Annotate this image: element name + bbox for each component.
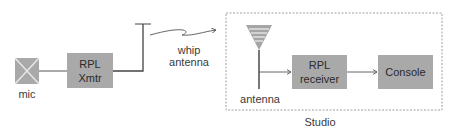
- receiver-line2: receiver: [300, 72, 339, 86]
- receiver-box: RPL receiver: [292, 55, 347, 89]
- studio-label: Studio: [300, 116, 340, 128]
- whip-label-line2: antenna: [166, 56, 212, 68]
- console-box: Console: [378, 55, 433, 89]
- radio-wave-icon: [150, 30, 216, 35]
- mic-icon: [15, 58, 39, 84]
- whip-label-line1: whip: [166, 44, 212, 56]
- antenna-label: antenna: [238, 93, 282, 105]
- mic-label: mic: [12, 88, 42, 100]
- transmitter-line1: RPL: [79, 57, 100, 71]
- whip-antenna-label: whip antenna: [166, 44, 212, 68]
- transmitter-line2: Xmtr: [78, 71, 101, 85]
- console-label: Console: [385, 65, 425, 79]
- receiver-line1: RPL: [309, 58, 330, 72]
- antenna-icon: [246, 25, 272, 89]
- xmtr-to-whip-line: [113, 24, 143, 71]
- transmitter-box: RPL Xmtr: [67, 53, 113, 88]
